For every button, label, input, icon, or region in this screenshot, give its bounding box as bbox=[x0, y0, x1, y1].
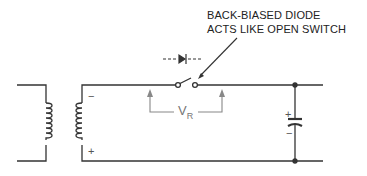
transformer-primary bbox=[17, 85, 52, 161]
capacitor-bottom-polarity: − bbox=[286, 128, 292, 139]
annotation-line-2: ACTS LIKE OPEN SWITCH bbox=[207, 23, 346, 36]
capacitor-top-polarity: + bbox=[285, 109, 291, 120]
voltage-symbol: V bbox=[178, 103, 187, 118]
secondary-top-polarity: − bbox=[88, 91, 94, 102]
annotation-leader bbox=[200, 38, 237, 76]
diode-icon bbox=[163, 54, 203, 64]
circuit-diagram: BACK-BIASED DIODE ACTS LIKE OPEN SWITCH … bbox=[0, 0, 367, 176]
capacitor bbox=[288, 83, 302, 163]
open-switch bbox=[176, 78, 323, 87]
voltage-label: VR bbox=[178, 103, 193, 121]
annotation-line-1: BACK-BIASED DIODE bbox=[207, 9, 321, 22]
secondary-bottom-polarity: + bbox=[88, 146, 94, 157]
transformer-secondary bbox=[76, 85, 323, 161]
voltage-subscript: R bbox=[187, 111, 194, 121]
